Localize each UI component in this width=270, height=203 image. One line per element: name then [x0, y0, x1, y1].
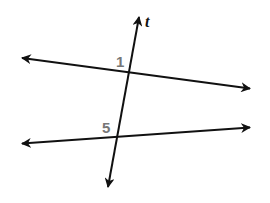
upper-parallel-line	[22, 58, 250, 89]
transversal-line	[108, 17, 139, 187]
lower-parallel-line	[22, 127, 250, 143]
angle-label-1: 1	[116, 53, 124, 70]
transversal-label: t	[145, 13, 150, 30]
diagram-canvas: t 1 5	[0, 0, 270, 203]
angle-label-5: 5	[102, 119, 110, 136]
